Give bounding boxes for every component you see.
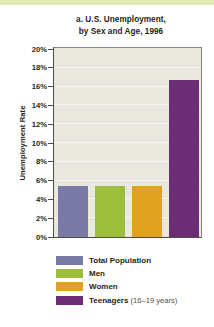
legend-item: Women	[56, 280, 208, 293]
plot-wrapper	[53, 47, 202, 238]
y-axis-tick-label: 12%	[13, 119, 47, 128]
y-axis-tick-label: 18%	[13, 63, 47, 72]
y-axis-tick-label: 14%	[13, 100, 47, 109]
legend-swatch	[56, 256, 83, 265]
chart-figure: a. U.S. Unemployment, by Sex and Age, 19…	[0, 0, 214, 327]
legend-swatch	[56, 296, 83, 305]
bar	[58, 186, 88, 237]
legend-swatch	[56, 282, 83, 291]
chart-title-line-1: a. U.S. Unemployment,	[36, 14, 206, 26]
legend-label: Men	[89, 269, 105, 278]
chart-legend: Total PopulationMenWomenTeenagers (16–19…	[56, 254, 208, 307]
legend-label-note: (16–19 years)	[128, 296, 177, 305]
bar	[169, 80, 199, 237]
page-edge-strip	[0, 0, 214, 5]
bar	[95, 186, 125, 237]
y-axis-tick-label: 10%	[13, 138, 47, 147]
legend-swatch	[56, 269, 83, 278]
bar	[132, 186, 162, 237]
y-axis-tick-label: 0%	[13, 232, 47, 241]
chart-title-line-2: by Sex and Age, 1996	[36, 26, 206, 38]
legend-item: Total Population	[56, 254, 208, 267]
y-axis-tick-label: 16%	[13, 82, 47, 91]
legend-item: Teenagers (16–19 years)	[56, 294, 208, 307]
legend-label: Women	[89, 282, 118, 291]
gridline	[54, 67, 201, 68]
y-axis-tick-label: 8%	[13, 157, 47, 166]
y-axis-tick-label: 2%	[13, 213, 47, 222]
legend-label: Teenagers (16–19 years)	[89, 296, 177, 305]
y-axis-tick-label: 20%	[13, 44, 47, 53]
y-axis-tick-label: 4%	[13, 194, 47, 203]
chart-title: a. U.S. Unemployment, by Sex and Age, 19…	[36, 14, 206, 37]
legend-item: Men	[56, 267, 208, 280]
legend-label: Total Population	[89, 256, 151, 265]
y-axis-tick-label: 6%	[13, 176, 47, 185]
plot-area	[53, 47, 202, 238]
